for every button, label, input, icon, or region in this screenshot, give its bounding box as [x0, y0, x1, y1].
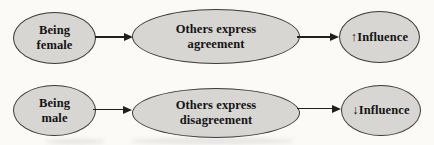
node-label: Others express disagreement [176, 98, 257, 128]
node-label: ↑Influence [351, 30, 408, 45]
node-being-male: Being male [13, 85, 96, 136]
node-increased-influence: ↑Influence [339, 11, 420, 63]
arrow-line [297, 36, 330, 38]
arrow-head-icon [330, 33, 339, 41]
node-others-express-agreement: Others express agreement [132, 9, 300, 64]
diagram-canvas: Being female Others express agreement ↑I… [0, 0, 434, 145]
node-label: Others express agreement [176, 22, 257, 52]
arrow-male-to-disagreement [93, 105, 132, 114]
arrow-line [297, 108, 332, 110]
node-others-express-disagreement: Others express disagreement [132, 88, 300, 138]
influence-label: Influence [357, 30, 408, 44]
arrow-head-icon [123, 106, 132, 114]
scan-artifact [130, 138, 295, 144]
scan-artifact [45, 139, 105, 144]
node-decreased-influence: ↓Influence [341, 85, 421, 136]
arrow-head-icon [332, 105, 341, 113]
node-label: ↓Influence [352, 103, 409, 118]
node-label: Being female [37, 23, 73, 53]
node-being-female: Being female [13, 12, 96, 64]
influence-label: Influence [359, 103, 410, 117]
arrow-line [93, 109, 123, 111]
node-label: Being male [39, 96, 70, 126]
arrow-line [95, 36, 124, 38]
arrow-agreement-to-influence [297, 33, 339, 42]
arrow-female-to-agreement [95, 33, 133, 42]
arrow-disagreement-to-influence [297, 104, 341, 113]
